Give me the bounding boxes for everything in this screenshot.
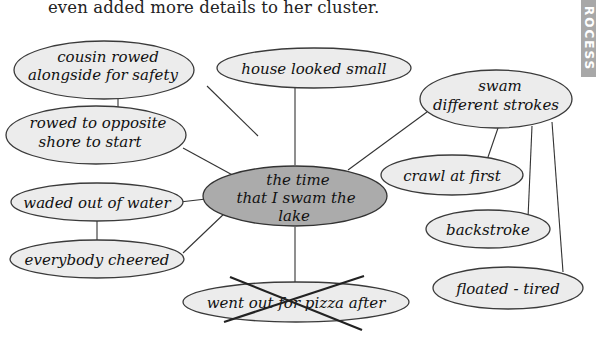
node-cousin-line-1: cousin rowed bbox=[57, 48, 159, 66]
edge-cheered-center bbox=[183, 212, 226, 253]
node-cousin: cousin rowed alongside for safety bbox=[14, 41, 194, 99]
node-waded-line-1: waded out of water bbox=[23, 194, 171, 212]
node-pizza: went out for pizza after bbox=[183, 276, 409, 330]
center-label-line-3: lake bbox=[278, 207, 310, 225]
cluster-diagram: the time that I swam the lake cousin row… bbox=[0, 0, 596, 339]
node-swam-line-1: swam bbox=[478, 77, 522, 95]
node-crawl-line-1: crawl at first bbox=[403, 167, 502, 185]
node-swam: swam different strokes bbox=[420, 70, 572, 128]
edge-swam-floated bbox=[552, 122, 563, 272]
node-backstroke: backstroke bbox=[426, 210, 550, 248]
node-rowed-line-1: rowed to opposite bbox=[30, 114, 167, 132]
node-house: house looked small bbox=[217, 48, 411, 88]
edge-swam-crawl bbox=[487, 128, 498, 160]
node-cheered: everybody cheered bbox=[10, 240, 184, 278]
node-rowed: rowed to opposite shore to start bbox=[6, 106, 186, 164]
node-waded: waded out of water bbox=[11, 183, 183, 221]
node-floated-line-1: floated - tired bbox=[455, 280, 560, 298]
node-cheered-line-1: everybody cheered bbox=[25, 251, 170, 269]
node-cousin-line-2: alongside for safety bbox=[28, 66, 178, 84]
edge-waded-center bbox=[180, 199, 206, 202]
edge-rowed-center bbox=[183, 148, 238, 178]
node-house-line-1: house looked small bbox=[241, 60, 387, 78]
center-label-line-2: that I swam the bbox=[236, 189, 355, 207]
node-rowed-line-2: shore to start bbox=[39, 133, 143, 151]
center-label-line-1: the time bbox=[266, 171, 329, 189]
node-floated: floated - tired bbox=[433, 267, 583, 309]
node-swam-line-2: different strokes bbox=[433, 96, 559, 114]
node-crawl: crawl at first bbox=[381, 155, 523, 195]
edge-swam-backstroke bbox=[528, 126, 532, 218]
center-node: the time that I swam the lake bbox=[203, 166, 387, 226]
edge-rowed-house bbox=[207, 86, 258, 136]
node-backstroke-line-1: backstroke bbox=[446, 221, 530, 239]
